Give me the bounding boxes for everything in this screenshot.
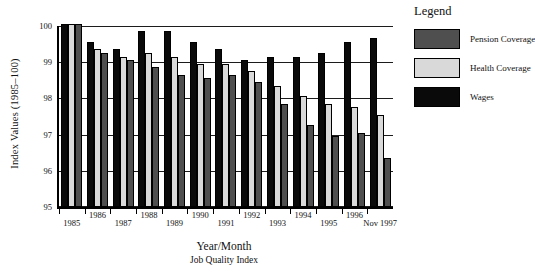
x-tick <box>239 209 240 214</box>
bar-pension-coverage-1991 <box>229 75 236 207</box>
bar-pension-coverage-1985 <box>75 24 82 207</box>
plot-area <box>57 26 393 209</box>
x-tick-label-nov-1997: Nov 1997 <box>363 218 397 228</box>
bar-pension-coverage-1993 <box>281 104 288 207</box>
bar-group-1988 <box>136 26 162 207</box>
x-tick <box>85 209 86 214</box>
bar-pension-coverage-1996 <box>358 133 365 207</box>
bar-health-coverage-1990 <box>197 64 204 207</box>
x-tick-label-1996: 1996 <box>346 210 363 220</box>
bar-health-coverage-1996 <box>351 107 358 207</box>
x-tick <box>367 209 368 214</box>
bar-pension-coverage-1989 <box>178 75 185 207</box>
x-tick <box>342 209 343 214</box>
x-tick <box>110 209 111 214</box>
x-tick <box>290 209 291 214</box>
bar-wages-1988 <box>138 31 145 207</box>
y-axis-title: Index Values (1985–100) <box>9 34 20 194</box>
bar-health-coverage-1985 <box>68 24 75 207</box>
bar-group-1993 <box>265 26 291 207</box>
x-tick-label-1992: 1992 <box>243 210 260 220</box>
bar-group-nov-1997 <box>367 26 393 207</box>
bar-wages-1992 <box>241 60 248 207</box>
pension-coverage-swatch <box>414 29 460 49</box>
x-tick-label-1989: 1989 <box>166 218 183 228</box>
bar-pension-coverage-1988 <box>152 67 159 207</box>
bar-wages-1990 <box>190 42 197 207</box>
x-tick <box>316 209 317 214</box>
bar-pension-coverage-1987 <box>127 60 134 207</box>
x-tick-label-1988: 1988 <box>140 210 157 220</box>
x-tick <box>265 209 266 214</box>
bar-wages-1986 <box>87 42 94 207</box>
legend-item-wages: Wages <box>414 87 535 107</box>
bar-group-1992 <box>239 26 265 207</box>
bar-wages-1985 <box>61 24 68 207</box>
bar-wages-1996 <box>344 42 351 207</box>
bar-health-coverage-1994 <box>300 96 307 207</box>
bar-health-coverage-1986 <box>94 49 101 207</box>
y-tick-label-96: 96 <box>30 166 52 176</box>
bar-health-coverage-1988 <box>145 53 152 207</box>
legend: Legend Pension Coverage Health Coverage … <box>414 4 535 116</box>
legend-label: Pension Coverage <box>470 34 535 44</box>
bar-pension-coverage-nov-1997 <box>384 158 391 207</box>
bar-group-1989 <box>162 26 188 207</box>
y-tick-label-99: 99 <box>30 57 52 67</box>
bar-health-coverage-1989 <box>171 57 178 207</box>
x-tick-label-1985: 1985 <box>63 218 80 228</box>
legend-item-health-coverage: Health Coverage <box>414 58 535 78</box>
legend-item-pension-coverage: Pension Coverage <box>414 29 535 49</box>
bar-group-1991 <box>213 26 239 207</box>
bar-group-1986 <box>85 26 111 207</box>
health-coverage-swatch <box>414 58 460 78</box>
bar-group-1990 <box>187 26 213 207</box>
x-tick <box>213 209 214 214</box>
x-tick-label-1991: 1991 <box>218 218 235 228</box>
bar-wages-1994 <box>293 57 300 207</box>
bar-pension-coverage-1994 <box>307 125 314 207</box>
y-tick-label-97: 97 <box>30 130 52 140</box>
bar-pension-coverage-1995 <box>332 136 339 207</box>
x-axis-title: Year/Month <box>57 240 391 252</box>
x-tick-label-1987: 1987 <box>115 218 132 228</box>
x-tick-label-1986: 1986 <box>89 210 106 220</box>
x-tick-label-1994: 1994 <box>295 210 312 220</box>
legend-label: Health Coverage <box>470 63 531 73</box>
bar-group-1995 <box>316 26 342 207</box>
y-tick-label-100: 100 <box>30 21 52 31</box>
bar-wages-1995 <box>318 53 325 207</box>
bar-groups <box>59 26 393 207</box>
y-tick-label-95: 95 <box>30 202 52 212</box>
bar-wages-1989 <box>164 31 171 207</box>
x-tick-label-1990: 1990 <box>192 210 209 220</box>
y-tick-label-98: 98 <box>30 93 52 103</box>
x-tick <box>59 209 60 214</box>
x-axis-subtitle: Job Quality Index <box>57 255 391 265</box>
bar-pension-coverage-1992 <box>255 82 262 207</box>
bar-health-coverage-1992 <box>248 71 255 207</box>
x-tick <box>162 209 163 214</box>
bar-wages-1993 <box>267 57 274 207</box>
bar-health-coverage-1995 <box>325 104 332 207</box>
bar-health-coverage-1993 <box>274 86 281 207</box>
bar-health-coverage-1987 <box>120 57 127 207</box>
x-tick <box>187 209 188 214</box>
bar-pension-coverage-1990 <box>204 78 211 207</box>
x-tick <box>136 209 137 214</box>
bar-group-1996 <box>342 26 368 207</box>
legend-label: Wages <box>470 92 494 102</box>
x-tick-label-1995: 1995 <box>320 218 337 228</box>
job-quality-index-chart: Index Values (1985–100) Year/Month Job Q… <box>0 0 535 279</box>
bar-wages-nov-1997 <box>370 38 377 207</box>
bar-wages-1987 <box>113 49 120 207</box>
bar-group-1994 <box>290 26 316 207</box>
wages-swatch <box>414 87 460 107</box>
bar-pension-coverage-1986 <box>101 53 108 207</box>
bar-health-coverage-nov-1997 <box>377 115 384 208</box>
x-tick-label-1993: 1993 <box>269 218 286 228</box>
bar-wages-1991 <box>215 49 222 207</box>
bar-group-1987 <box>110 26 136 207</box>
bar-health-coverage-1991 <box>222 64 229 207</box>
legend-title: Legend <box>414 4 535 19</box>
